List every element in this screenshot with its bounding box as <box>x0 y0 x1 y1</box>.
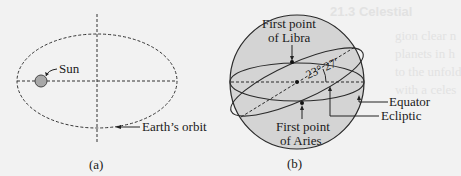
aries-label-line2: of Aries <box>280 133 322 148</box>
aries-point <box>300 101 304 105</box>
libra-label-line2: of Libra <box>268 30 310 45</box>
caption-a: (a) <box>89 157 103 172</box>
equator-pointer <box>359 99 388 102</box>
equator-label: Equator <box>389 94 431 109</box>
libra-point <box>290 60 294 64</box>
libra-label-line1: First point <box>262 16 316 31</box>
ecliptic-label: Ecliptic <box>381 108 422 123</box>
sphere-center-dot <box>295 80 299 84</box>
sun-icon <box>35 75 47 87</box>
aries-label-line1: First point <box>276 119 330 134</box>
figure-b: 23° 27′ First point of Libra First point… <box>223 15 430 171</box>
sun-pointer <box>46 69 57 76</box>
figure-a: Sun Earth’s orbit (a) <box>17 14 207 172</box>
caption-b: (b) <box>287 156 302 171</box>
sun-label: Sun <box>59 61 80 76</box>
orbit-label: Earth’s orbit <box>142 119 207 134</box>
orbit-arrowhead-icon <box>115 125 121 129</box>
